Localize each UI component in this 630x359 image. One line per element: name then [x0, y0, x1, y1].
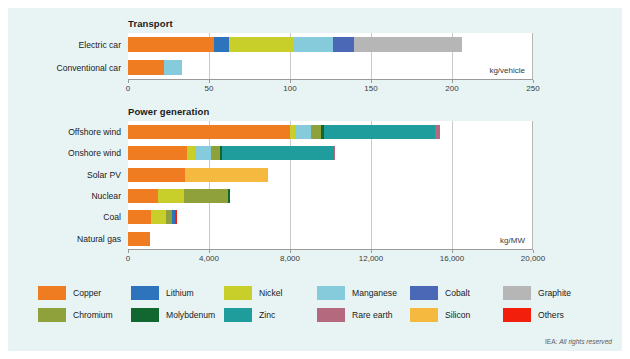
legend-item-manganese[interactable]: Manganese	[317, 285, 397, 300]
x-axis-tick	[533, 250, 534, 253]
legend-swatch-zinc	[224, 308, 252, 322]
category-label: Natural gas	[8, 234, 121, 244]
transport-unit-label: kg/vehicle	[128, 66, 525, 75]
bar-segment-manganese	[195, 146, 211, 160]
x-axis-tick	[290, 250, 291, 253]
x-axis-tick-label: 0	[126, 84, 130, 93]
legend-item-others[interactable]: Others	[503, 307, 564, 322]
legend-item-silicon[interactable]: Silicon	[410, 307, 470, 322]
x-axis-tick-label: 4,000	[199, 254, 219, 263]
bar-row	[128, 210, 533, 224]
bar-segment-copper	[128, 125, 290, 139]
bar-segment-nickel	[229, 37, 294, 52]
x-axis-line	[128, 249, 533, 250]
power-generation-panel-title: Power generation	[128, 106, 209, 117]
x-axis-tick	[128, 250, 129, 253]
bar-segment-nickel	[187, 146, 195, 160]
bar-segment-zinc	[222, 146, 333, 160]
x-axis-tick-label: 16,000	[440, 254, 464, 263]
legend-swatch-cobalt	[410, 286, 438, 300]
x-axis-tick-label: 200	[445, 84, 458, 93]
legend-label: Manganese	[352, 288, 397, 298]
bar-segment-silicon	[185, 168, 268, 182]
bar-segment-lithium	[214, 37, 228, 52]
bar-row	[128, 168, 533, 182]
bar-segment-graphite	[354, 37, 461, 52]
category-label: Nuclear	[8, 191, 121, 201]
legend-swatch-rare-earth	[317, 308, 345, 322]
legend-item-graphite[interactable]: Graphite	[503, 285, 571, 300]
x-axis-tick	[209, 80, 210, 83]
x-axis-tick	[371, 250, 372, 253]
x-axis-tick-label: 150	[364, 84, 377, 93]
bar-segment-chromium	[211, 146, 221, 160]
category-label: Solar PV	[8, 170, 121, 180]
legend-label: Molybdenum	[166, 310, 215, 320]
x-axis-tick-label: 0	[126, 254, 130, 263]
legend-label: Rare earth	[352, 310, 393, 320]
legend-label: Silicon	[445, 310, 470, 320]
legend-label: Nickel	[259, 288, 282, 298]
x-axis-tick-label: 8,000	[280, 254, 300, 263]
x-axis-tick	[290, 80, 291, 83]
x-axis-tick	[452, 80, 453, 83]
bar-segment-manganese	[293, 37, 333, 52]
bar-segment-manganese	[295, 125, 311, 139]
legend-item-molybdenum[interactable]: Molybdenum	[131, 307, 215, 322]
x-axis-tick-label: 250	[526, 84, 539, 93]
legend-item-copper[interactable]: Copper	[38, 285, 101, 300]
legend-item-rare-earth[interactable]: Rare earth	[317, 307, 393, 322]
bar-segment-molybdenum	[228, 189, 229, 203]
transport-panel-title: Transport	[128, 18, 173, 29]
bar-segment-cobalt	[333, 37, 355, 52]
credit-prefix: IEA:	[545, 338, 557, 345]
legend-label: Chromium	[73, 310, 113, 320]
legend-item-zinc[interactable]: Zinc	[224, 307, 275, 322]
bar-segment-rare_earth	[435, 125, 440, 139]
category-label: Offshore wind	[8, 127, 121, 137]
credit-line: IEA: All rights reserved	[545, 338, 612, 345]
plot-right-border	[532, 121, 533, 249]
legend-item-nickel[interactable]: Nickel	[224, 285, 282, 300]
legend-label: Graphite	[538, 288, 571, 298]
credit-text: All rights reserved	[559, 338, 612, 345]
bar-segment-nickel	[158, 189, 184, 203]
legend-item-lithium[interactable]: Lithium	[131, 285, 194, 300]
legend-swatch-graphite	[503, 286, 531, 300]
legend-swatch-manganese	[317, 286, 345, 300]
legend-item-cobalt[interactable]: Cobalt	[410, 285, 470, 300]
legend-label: Others	[538, 310, 564, 320]
x-axis-line	[128, 79, 533, 80]
bar-row	[128, 146, 533, 160]
category-label: Coal	[8, 212, 121, 222]
bar-segment-others	[175, 210, 177, 224]
x-axis-tick	[209, 250, 210, 253]
legend-swatch-silicon	[410, 308, 438, 322]
legend-swatch-molybdenum	[131, 308, 159, 322]
x-axis-tick	[533, 80, 534, 83]
bar-segment-copper	[128, 189, 158, 203]
chart-canvas: Transport kg/vehicle Electric carConvent…	[8, 8, 622, 351]
bar-segment-nickel	[151, 210, 166, 224]
legend-swatch-lithium	[131, 286, 159, 300]
gridline	[452, 121, 453, 249]
bar-segment-copper	[128, 168, 185, 182]
gridline	[290, 121, 291, 249]
gridline	[209, 121, 210, 249]
x-axis-tick	[371, 80, 372, 83]
x-axis-tick-label: 100	[283, 84, 296, 93]
legend-label: Cobalt	[445, 288, 470, 298]
chart-page: Transport kg/vehicle Electric carConvent…	[0, 0, 630, 359]
legend-swatch-chromium	[38, 308, 66, 322]
x-axis-tick-label: 20,000	[521, 254, 545, 263]
bar-row	[128, 125, 533, 139]
x-axis-tick	[452, 250, 453, 253]
legend-item-chromium[interactable]: Chromium	[38, 307, 113, 322]
bar-segment-chromium	[311, 125, 322, 139]
legend-label: Zinc	[259, 310, 275, 320]
category-label: Onshore wind	[8, 148, 121, 158]
x-axis-tick-label: 12,000	[359, 254, 383, 263]
bar-segment-zinc	[324, 125, 435, 139]
bar-segment-copper	[128, 37, 214, 52]
bar-row	[128, 37, 533, 52]
